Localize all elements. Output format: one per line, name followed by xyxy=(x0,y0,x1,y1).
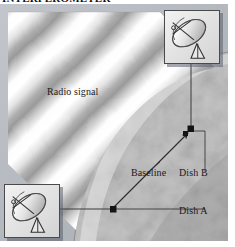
label-baseline: Baseline xyxy=(131,167,166,178)
label-dish-b: Dish B xyxy=(179,167,208,178)
label-radio-signal: Radio signal xyxy=(47,86,98,97)
dish-inset-bottom-left xyxy=(4,184,60,238)
dish-b-marker-inner xyxy=(183,131,188,136)
diagram-scene: Radio signal Baseline Dish B Dish A xyxy=(0,4,228,241)
dish-inset-top-right xyxy=(164,10,220,64)
radio-telescope-dish-icon xyxy=(165,11,219,63)
radio-telescope-dish-icon xyxy=(5,185,59,237)
dish-b-marker xyxy=(188,126,195,133)
interferometer-figure: INTERFEROMETER xyxy=(0,0,235,247)
dish-a-marker xyxy=(110,206,117,213)
label-dish-a: Dish A xyxy=(179,205,208,216)
